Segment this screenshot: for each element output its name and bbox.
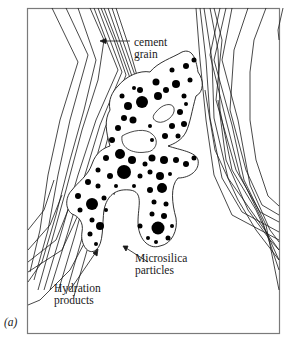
- right-cement-grain-lines: [196, 8, 283, 290]
- panel-label: (a): [4, 316, 17, 328]
- schematic-figure: cement grain Microsilica particles Hydra…: [0, 0, 301, 347]
- cement-grain-label: cement grain: [134, 36, 167, 60]
- hydration-products-label: Hydration products: [54, 282, 101, 306]
- microsilica-particles-label: Microsilica particles: [135, 252, 187, 276]
